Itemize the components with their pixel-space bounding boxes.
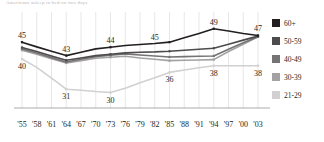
x-axis-tick: '00: [239, 119, 248, 130]
legend-item-30-39[interactable]: 30-39: [272, 68, 324, 86]
legend-swatch-icon: [272, 55, 280, 63]
legend-swatch-icon: [272, 73, 280, 81]
x-axis-tick: '97: [224, 119, 233, 130]
data-point-label: 38: [254, 69, 262, 78]
data-point-label: 43: [62, 45, 70, 54]
x-axis-tick: '03: [253, 119, 262, 130]
legend-item-50-59[interactable]: 50-59: [272, 32, 324, 50]
x-axis-tick: '64: [62, 119, 71, 130]
legend-label: 40-49: [284, 55, 302, 64]
legend-label: 50-59: [284, 37, 302, 46]
data-point-label: 31: [62, 92, 70, 101]
data-point-label: 38: [210, 69, 218, 78]
x-axis-tick: '55: [17, 119, 26, 130]
data-point-label: 47: [254, 24, 262, 33]
x-axis-tick: '58: [32, 119, 41, 130]
legend-label: 30-39: [284, 73, 302, 82]
x-axis-tick: '76: [121, 119, 130, 130]
line-chart-svg: [14, 12, 266, 112]
legend-item-21-29[interactable]: 21-29: [272, 86, 324, 104]
chart-root: Americans asleep in bed on two days '55'…: [0, 0, 324, 142]
x-axis-tick: '82: [150, 119, 159, 130]
legend-swatch-icon: [272, 19, 280, 27]
legend-item-60plus[interactable]: 60+: [272, 14, 324, 32]
data-point-label: 49: [210, 18, 218, 27]
legend-swatch-icon: [272, 37, 280, 45]
data-point-label: 45: [151, 33, 159, 42]
data-point-label: 30: [107, 96, 115, 105]
plot-area: [14, 12, 266, 112]
legend: 60+50-5940-4930-3921-29: [272, 14, 324, 104]
x-axis-tick: '91: [194, 119, 203, 130]
chart-title: Americans asleep in bed on two days: [6, 0, 87, 6]
x-axis-tick: '73: [106, 119, 115, 130]
data-point-label: 36: [166, 75, 174, 84]
x-axis-tick: '94: [209, 119, 218, 130]
legend-item-40-49[interactable]: 40-49: [272, 50, 324, 68]
data-point-label: 45: [18, 31, 26, 40]
x-axis: '55'58'61'64'67'70'73'76'79'82'85'88'91'…: [8, 119, 274, 133]
legend-label: 21-29: [284, 91, 302, 100]
legend-swatch-icon: [272, 91, 280, 99]
x-axis-tick: '85: [165, 119, 174, 130]
data-point-label: 44: [107, 36, 115, 45]
data-point-label: 40: [18, 62, 26, 71]
x-axis-tick: '61: [47, 119, 56, 130]
x-axis-tick: '67: [76, 119, 85, 130]
legend-label: 60+: [284, 19, 296, 28]
x-axis-tick: '70: [91, 119, 100, 130]
x-axis-tick: '79: [135, 119, 144, 130]
x-axis-tick: '88: [180, 119, 189, 130]
